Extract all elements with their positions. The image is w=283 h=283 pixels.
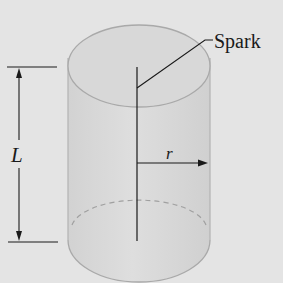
cylinder xyxy=(68,25,210,282)
radius-label: r xyxy=(166,145,173,162)
length-label: L xyxy=(11,145,23,166)
arrow-up-icon xyxy=(16,68,22,78)
cylinder-spark-diagram: Spark L r xyxy=(0,0,283,283)
arrow-down-icon xyxy=(16,231,22,241)
spark-label: Spark xyxy=(214,31,261,51)
cylinder-top-ellipse xyxy=(68,25,210,107)
